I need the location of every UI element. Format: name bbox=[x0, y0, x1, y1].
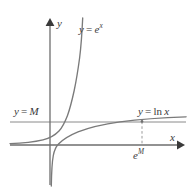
ln-label-arg: x bbox=[164, 105, 169, 117]
exponential-curve-label: y = ex bbox=[79, 24, 103, 35]
intersection-point-marker bbox=[141, 120, 144, 123]
m-label-op: = bbox=[19, 105, 30, 117]
x-axis-label: x bbox=[170, 132, 175, 143]
curve-exponential bbox=[10, 18, 83, 144]
exp-label-exponent: x bbox=[99, 22, 102, 30]
x-intercept-tick-label: eM bbox=[133, 150, 144, 161]
m-label-rhs: M bbox=[30, 105, 39, 117]
em-label-exponent: M bbox=[138, 148, 144, 156]
x-axis-arrowhead-icon bbox=[177, 141, 185, 150]
logarithm-curve-label: y = ln x bbox=[138, 106, 169, 117]
figure-canvas: y y = ex y = M y = ln x x eM bbox=[0, 0, 190, 191]
ln-label-op: = bbox=[143, 105, 154, 117]
exp-label-op: = bbox=[84, 23, 95, 35]
curve-logarithm bbox=[51, 117, 186, 186]
y-axis-label: y bbox=[57, 18, 62, 29]
horizontal-line-label: y = M bbox=[14, 106, 39, 117]
y-axis-arrowhead-icon bbox=[46, 18, 55, 26]
ln-label-fn: ln bbox=[154, 105, 165, 117]
